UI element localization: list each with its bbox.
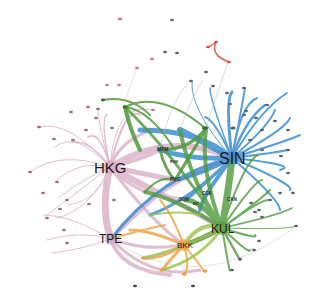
node-label-mfm: MFM [157, 146, 168, 152]
airport-network-graph: HKG SIN TPE KUL BKK MFM PVG SGN CGK CAN … [0, 0, 317, 296]
node-label-cgk: CGK [202, 191, 213, 196]
hub-label-tpe: TPE [99, 232, 122, 246]
node-label-can: CAN [227, 197, 237, 202]
node-label-bki: BKI [193, 202, 199, 206]
node-label-sgn: SGN [179, 197, 189, 202]
hub-label-sin: SIN [219, 150, 246, 167]
red-edge [215, 42, 229, 62]
node-label-pvg: PVG [170, 176, 181, 182]
hub-label-bkk: BKK [177, 241, 194, 250]
node-label-rgn: RGN [170, 160, 178, 164]
hub-label-kul: KUL [211, 222, 235, 236]
hub-label-hkg: HKG [94, 159, 127, 176]
